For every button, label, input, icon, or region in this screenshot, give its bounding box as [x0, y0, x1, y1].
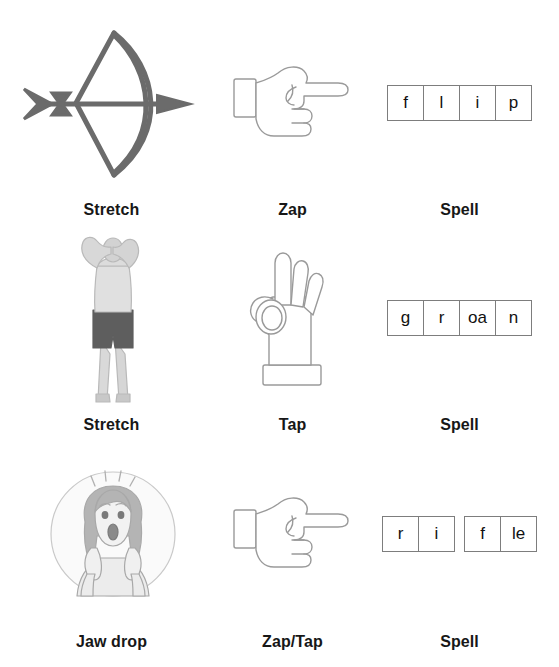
grapheme-box: p: [495, 85, 532, 121]
word-group: f l i p: [387, 85, 532, 121]
jaw-drop-label: Jaw drop: [76, 618, 147, 650]
grapheme-box: oa: [459, 300, 496, 336]
shocked-face-icon: [0, 450, 225, 618]
spell-label: Spell: [440, 188, 479, 218]
stretch-label: Stretch: [84, 188, 140, 218]
tap-label: Tap: [279, 407, 307, 433]
zap-tap-label: Zap/Tap: [262, 618, 323, 650]
spell-boxes: r i f le: [360, 450, 559, 618]
word-group: g r oa n: [387, 300, 532, 336]
spell-cell: f l i p Spell: [360, 18, 559, 218]
grapheme-box: r: [423, 300, 460, 336]
word-work-chart: Stretch: [0, 0, 559, 667]
stretch-label: Stretch: [84, 407, 140, 433]
spell-cell: g r oa n Spell: [360, 228, 559, 433]
chart-row: Stretch: [0, 228, 559, 433]
grapheme-box: i: [459, 85, 496, 121]
grapheme-box: i: [418, 516, 455, 552]
word-group: f le: [464, 516, 537, 552]
bow-and-arrow-icon: [0, 18, 225, 188]
word-group: r i: [382, 516, 455, 552]
grapheme-box: g: [387, 300, 424, 336]
chart-row: Jaw drop Zap/Tap: [0, 450, 559, 650]
grapheme-box: n: [495, 300, 532, 336]
jaw-drop-cell: Jaw drop: [0, 450, 225, 650]
stretch-cell: Stretch: [0, 18, 225, 218]
spell-box-row: r i f le: [382, 516, 537, 552]
grapheme-box: r: [382, 516, 419, 552]
zap-cell: Zap: [225, 18, 360, 218]
grapheme-box: le: [500, 516, 537, 552]
stretch-cell: Stretch: [0, 228, 225, 433]
ok-hand-icon: [225, 228, 360, 407]
person-stretching-icon: [0, 228, 225, 407]
chart-row: Stretch: [0, 18, 559, 218]
pointing-hand-icon: [225, 18, 360, 188]
spell-label: Spell: [440, 407, 479, 433]
spell-label: Spell: [440, 618, 479, 650]
grapheme-box: l: [423, 85, 460, 121]
zap-tap-cell: Zap/Tap: [225, 450, 360, 650]
grapheme-box: f: [387, 85, 424, 121]
pointing-hand-icon: [225, 450, 360, 618]
tap-cell: Tap: [225, 228, 360, 433]
spell-boxes: f l i p: [360, 18, 559, 188]
spell-cell: r i f le Spell: [360, 450, 559, 650]
spell-box-row: g r oa n: [387, 300, 532, 336]
grapheme-box: f: [464, 516, 501, 552]
zap-label: Zap: [278, 188, 307, 218]
spell-boxes: g r oa n: [360, 228, 559, 407]
spell-box-row: f l i p: [387, 85, 532, 121]
